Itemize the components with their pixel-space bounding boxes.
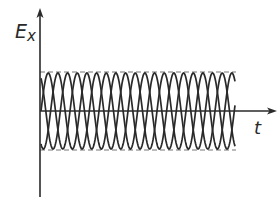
y-axis-label-main: E <box>15 20 27 42</box>
y-axis-label: Ex <box>15 20 36 45</box>
wave-diagram <box>0 0 280 207</box>
x-axis-label: t <box>254 117 261 138</box>
y-axis-label-subscript: x <box>27 27 36 45</box>
